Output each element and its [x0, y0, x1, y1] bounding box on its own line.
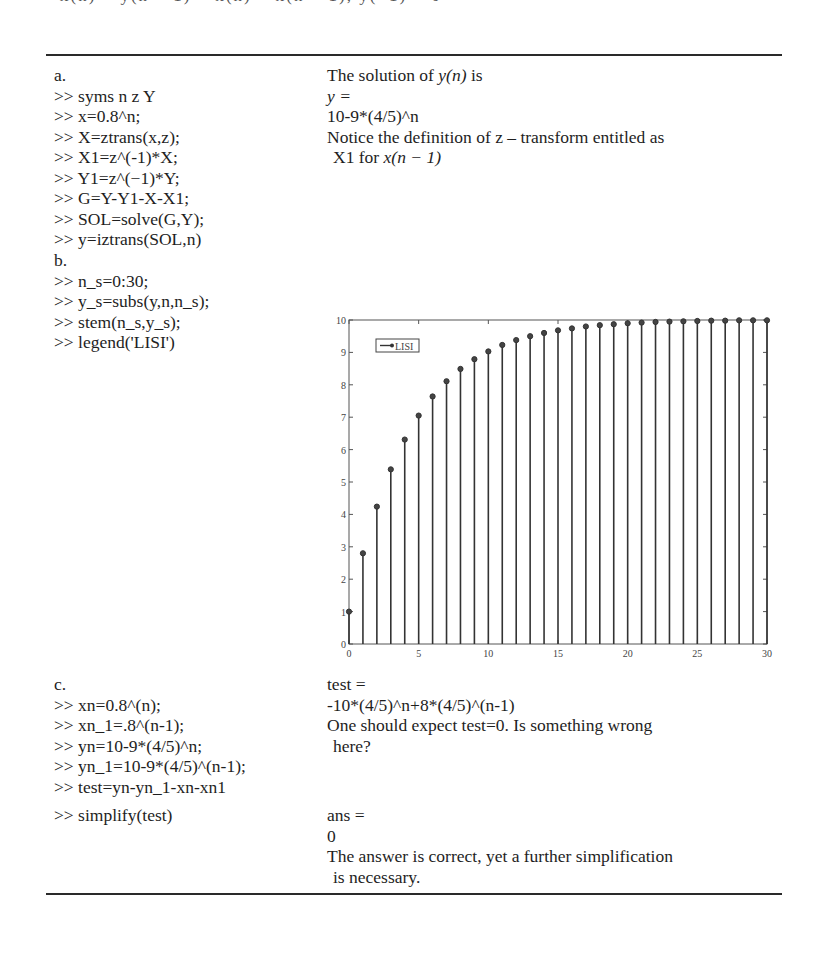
y-tick-label: 0	[341, 639, 346, 650]
y-tick-label: 9	[341, 347, 346, 358]
stem-marker	[528, 334, 533, 339]
legend-marker-icon	[390, 344, 394, 348]
section-c-label: c.	[54, 674, 66, 694]
code-line: >> x=0.8^n;	[54, 106, 140, 126]
y-tick-label: 5	[341, 477, 346, 488]
comment-line: One should expect test=0. Is something w…	[327, 715, 652, 735]
code-line: >> simplify(test)	[54, 805, 172, 825]
stem-marker	[639, 320, 644, 325]
bottom-rule	[46, 893, 782, 895]
code-line: >> syms n z Y	[54, 86, 156, 106]
stem-marker	[750, 318, 755, 323]
y-tick-label: 3	[341, 542, 346, 553]
stem-marker	[541, 330, 546, 335]
output-var-y: y =	[327, 86, 351, 106]
stem-marker	[667, 319, 672, 324]
y-tick-label: 8	[341, 380, 346, 391]
stem-marker	[695, 318, 700, 323]
comment-line-2: here?	[333, 736, 371, 756]
stem-marker	[500, 342, 505, 347]
x-tick-label: 0	[347, 648, 352, 659]
code-line: >> xn_1=.8^(n-1);	[54, 715, 184, 735]
note-line-2: X1 for x(n − 1)	[333, 147, 441, 167]
stem-marker	[653, 319, 658, 324]
solution-intro-math: y(n)	[438, 65, 466, 85]
code-line: >> yn_1=10-9*(4/5)^(n-1);	[54, 756, 246, 776]
solution-intro-suffix: is	[467, 65, 483, 85]
stem-marker	[555, 328, 560, 333]
x-tick-label: 20	[623, 648, 633, 659]
stem-marker	[444, 379, 449, 384]
stem-marker	[723, 318, 728, 323]
final-note: The answer is correct, yet a further sim…	[327, 846, 673, 866]
x-tick-label: 10	[483, 648, 493, 659]
solution-intro: The solution of y(n) is	[327, 65, 483, 85]
solution-intro-prefix: The solution of	[327, 65, 438, 85]
legend-label: LISI	[395, 341, 413, 352]
stem-marker	[430, 394, 435, 399]
note-prefix: X1 for	[333, 147, 384, 167]
output-result: 10-9*(4/5)^n	[327, 106, 419, 126]
stem-marker	[346, 609, 351, 614]
code-line: >> stem(n_s,y_s);	[54, 312, 181, 332]
stem-marker	[625, 321, 630, 326]
stem-marker	[514, 337, 519, 342]
y-tick-label: 10	[336, 315, 346, 326]
x-tick-label: 5	[416, 648, 421, 659]
stem-marker	[583, 324, 588, 329]
note-line: Notice the definition of z – transform e…	[327, 127, 664, 147]
code-line: >> legend('LISI')	[54, 332, 175, 352]
stem-marker	[374, 504, 379, 509]
y-tick-label: 2	[341, 574, 346, 585]
x-tick-label: 25	[692, 648, 702, 659]
final-note-2: is necessary.	[333, 867, 420, 887]
stem-marker	[611, 322, 616, 327]
y-tick-label: 1	[341, 607, 346, 618]
code-line: >> Y1=z^(−1)*Y;	[54, 168, 180, 188]
test-result: -10*(4/5)^n+8*(4/5)^(n-1)	[327, 695, 515, 715]
stem-marker	[458, 366, 463, 371]
stem-marker	[681, 319, 686, 324]
code-line: >> xn=0.8^(n);	[54, 695, 161, 715]
stem-marker	[737, 318, 742, 323]
stem-marker	[388, 467, 393, 472]
code-line: >> yn=10-9*(4/5)^n;	[54, 736, 202, 756]
code-line: >> test=yn-yn_1-xn-xn1	[54, 777, 226, 797]
note-math: x(n − 1)	[384, 147, 441, 167]
section-a-label: a.	[54, 65, 66, 85]
ans-value: 0	[327, 826, 336, 846]
section-b-label: b.	[54, 250, 67, 270]
y-tick-label: 7	[341, 412, 346, 423]
code-line: >> SOL=solve(G,Y);	[54, 209, 204, 229]
top-rule	[46, 54, 782, 56]
code-line: >> X=ztrans(x,z);	[54, 127, 180, 147]
x-tick-label: 15	[553, 648, 563, 659]
code-line: >> y=iztrans(SOL,n)	[54, 229, 201, 249]
code-line: >> G=Y-Y1-X-X1;	[54, 188, 189, 208]
y-tick-label: 6	[341, 445, 346, 456]
stem-marker	[486, 349, 491, 354]
stem-marker	[597, 323, 602, 328]
y-tick-label: 4	[341, 509, 346, 520]
ans-var: ans =	[327, 805, 365, 825]
cropped-top-text: x(n) − y(n − 1) = x(n) + x(n − 1), y(−1)…	[60, 0, 442, 6]
stem-marker	[569, 326, 574, 331]
stem-marker	[709, 318, 714, 323]
stem-marker	[472, 357, 477, 362]
stem-marker	[360, 551, 365, 556]
stem-marker	[764, 318, 769, 323]
code-line: >> X1=z^(-1)*X;	[54, 147, 178, 167]
stem-plot-canvas: 012345678910051015202530LISI	[325, 312, 780, 664]
x-tick-label: 30	[762, 648, 772, 659]
stem-marker	[416, 413, 421, 418]
code-line: >> n_s=0:30;	[54, 271, 148, 291]
stem-plot: 012345678910051015202530LISI	[325, 312, 780, 664]
stem-marker	[402, 437, 407, 442]
test-var: test =	[327, 674, 366, 694]
code-line: >> y_s=subs(y,n,n_s);	[54, 291, 209, 311]
